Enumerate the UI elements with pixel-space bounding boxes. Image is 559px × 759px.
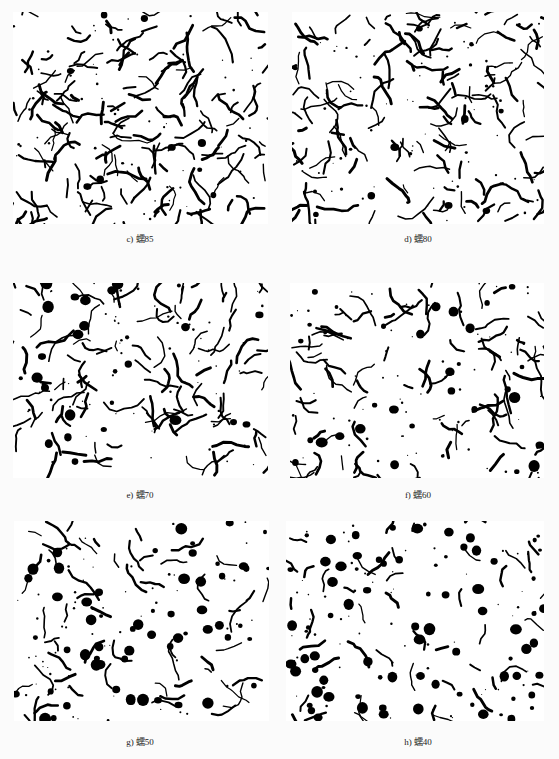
micrograph-c	[13, 12, 268, 224]
micrograph-image	[13, 283, 268, 478]
caption-f: f) 蠕60	[318, 488, 518, 501]
micrograph-image	[290, 283, 544, 478]
micrograph-image	[286, 521, 544, 721]
micrograph-g	[14, 521, 269, 721]
caption-h: h) 蠕40	[318, 735, 518, 748]
micrograph-h	[286, 521, 544, 721]
micrograph-e	[13, 283, 268, 478]
caption-d: d) 蠕80	[318, 232, 518, 245]
caption-c: c) 蠕85	[40, 232, 240, 245]
caption-e: e) 蠕70	[40, 488, 240, 501]
micrograph-image	[13, 12, 268, 224]
micrograph-image	[14, 521, 269, 721]
caption-g: g) 蠕50	[40, 735, 240, 748]
micrograph-f	[290, 283, 544, 478]
micrograph-d	[292, 12, 544, 224]
micrograph-image	[292, 12, 544, 224]
